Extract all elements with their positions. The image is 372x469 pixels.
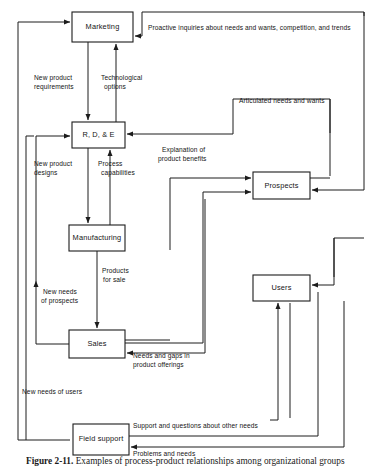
node-label-users: Users: [271, 283, 291, 292]
node-field-support[interactable]: Field support: [73, 424, 129, 455]
edge-label-new-product-requirements-line1: New product: [34, 74, 72, 82]
node-prospects[interactable]: Prospects: [253, 172, 310, 199]
edge-users-stem-bottom-join: [270, 340, 278, 420]
figure-caption-text: Examples of process-product relationship…: [76, 456, 345, 466]
process-relationship-diagram: Marketing R, D, & E Manufacturing Sales …: [0, 0, 372, 469]
edge-label-new-product-requirements-line2: requirements: [34, 83, 74, 91]
edge-sales-to-prospects: [125, 192, 251, 343]
edge-label-technological-options-line2: options: [104, 83, 127, 91]
edge-label-new-product-designs-line2: designs: [34, 169, 58, 177]
node-label-rde: R, D, & E: [82, 130, 114, 139]
edge-label-process-capabilities-line1: Process: [98, 160, 123, 167]
edge-articulated-needs-to-rde: [127, 99, 330, 134]
edge-rde-to-prospects-explanation: [170, 178, 251, 250]
node-label-field-support: Field support: [79, 434, 124, 443]
node-label-sales: Sales: [87, 339, 106, 348]
edge-label-explanation-benefits-line2: product benefits: [158, 155, 207, 163]
edge-label-products-for-sale-line1: Products: [102, 267, 129, 274]
edge-users-to-prospects-riser: [334, 238, 364, 277]
node-manufacturing[interactable]: Manufacturing: [69, 225, 125, 251]
edge-label-technological-options-line1: Technological: [101, 74, 143, 82]
node-sales[interactable]: Sales: [69, 330, 125, 358]
node-label-manufacturing: Manufacturing: [73, 233, 122, 242]
edge-label-new-needs-prospects-line1: New needs: [43, 288, 77, 295]
figure-container: Marketing R, D, & E Manufacturing Sales …: [0, 0, 372, 469]
edge-label-explanation-benefits-line1: Explanation of: [162, 146, 205, 154]
edge-riser-into-users: [312, 238, 334, 285]
edge-label-new-needs-prospects-line2: of prospects: [41, 297, 79, 305]
edge-label-new-product-designs-line1: New product: [34, 160, 72, 168]
node-label-marketing: Marketing: [86, 22, 120, 31]
edge-prospects-to-sales-needs-gaps: [127, 199, 205, 353]
edge-label-new-needs-of-users: New needs of users: [22, 388, 83, 395]
figure-caption: Figure 2-11. Examples of process-product…: [26, 456, 356, 469]
edge-label-proactive-inquiries: Proactive inquiries about needs and want…: [148, 24, 351, 32]
node-marketing[interactable]: Marketing: [72, 12, 133, 42]
node-label-prospects: Prospects: [264, 181, 298, 190]
edge-label-support-questions: Support and questions about other needs: [133, 422, 258, 430]
node-users[interactable]: Users: [253, 275, 310, 301]
edge-label-process-capabilities-line2: capabilities: [101, 169, 135, 177]
edge-label-articulated-needs: Articulated needs and wants: [239, 97, 325, 104]
edge-label-needs-and-gaps-line2: product offerings: [133, 361, 184, 369]
figure-caption-label: Figure 2-11.: [26, 456, 73, 466]
edge-label-needs-and-gaps-line1: Needs and gaps in: [133, 352, 190, 360]
edge-new-needs-prospects-branch: [36, 136, 70, 281]
edge-label-products-for-sale-line2: for sale: [103, 276, 126, 283]
node-rde[interactable]: R, D, & E: [72, 122, 125, 148]
